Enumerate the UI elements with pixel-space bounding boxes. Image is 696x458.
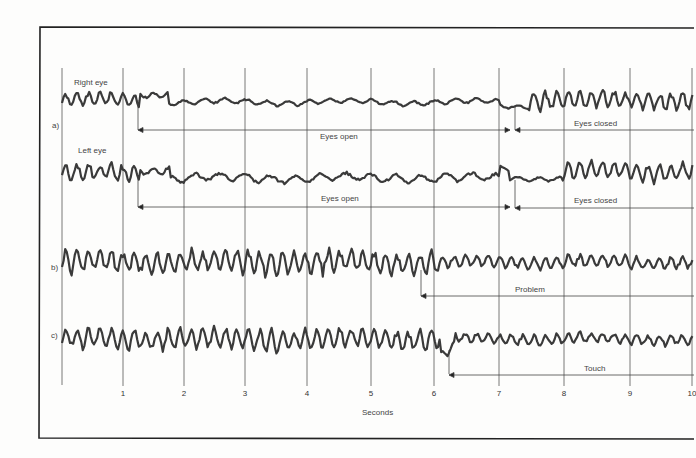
x-tick-label: 3 xyxy=(243,389,247,398)
figure-frame xyxy=(39,27,694,439)
annotation-problem: Problem xyxy=(515,285,545,294)
x-tick-label: 2 xyxy=(182,389,186,398)
annotation-right-eyes-open: Eyes open xyxy=(320,132,358,141)
x-tick-label: 9 xyxy=(628,389,632,398)
x-tick-label: 1 xyxy=(121,389,125,398)
event-arrows xyxy=(138,100,694,378)
x-tick-label: 7 xyxy=(497,389,501,398)
annotation-left-eyes-closed: Eyes closed xyxy=(574,196,617,205)
x-axis-label: Seconds xyxy=(362,408,393,417)
panel-label-b: b) xyxy=(51,263,58,272)
trace-label-right-eye: Right eye xyxy=(74,78,108,87)
x-tick-label: 6 xyxy=(432,389,436,398)
annotation-right-eyes-closed: Eyes closed xyxy=(574,119,617,128)
panel-label-c: c) xyxy=(51,331,58,340)
x-tick-label: 8 xyxy=(562,389,566,398)
trace-label-left-eye: Left eye xyxy=(78,146,106,155)
panel-label-a: a) xyxy=(52,121,59,130)
annotation-touch: Touch xyxy=(584,364,605,373)
x-tick-label: 5 xyxy=(369,389,373,398)
x-tick-label: 10 xyxy=(688,389,696,398)
x-tick-label: 4 xyxy=(305,389,309,398)
annotation-left-eyes-open: Eyes open xyxy=(321,194,359,203)
